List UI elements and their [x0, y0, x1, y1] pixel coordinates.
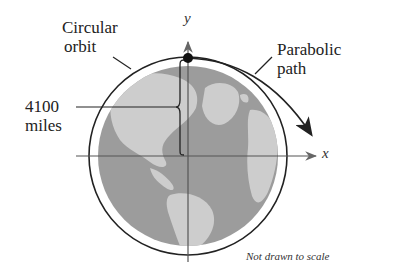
parabolic-path-label-line1: Parabolic [277, 40, 341, 59]
satellite-dot [183, 53, 193, 63]
x-axis-label: x [322, 145, 329, 162]
scale-note: Not drawn to scale [246, 250, 329, 262]
parabolic-path-label-line2: path [277, 59, 341, 78]
circular-orbit-label: Circular orbit [62, 18, 118, 56]
orbit-leader-line [113, 57, 131, 69]
distance-value: 4100 [25, 97, 62, 116]
distance-unit: miles [25, 116, 62, 135]
parabola-leader-line [255, 57, 272, 74]
diagram-canvas: Circular orbit Parabolic path 4100 miles… [0, 0, 393, 280]
y-axis-label: y [184, 10, 191, 27]
circular-orbit-label-line1: Circular [62, 18, 118, 37]
parabolic-path-label: Parabolic path [277, 40, 341, 78]
distance-label: 4100 miles [25, 97, 62, 135]
circular-orbit-label-line2: orbit [62, 37, 118, 56]
